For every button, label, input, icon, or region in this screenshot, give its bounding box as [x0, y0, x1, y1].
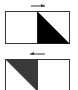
diagram-canvas	[0, 0, 78, 90]
bottom-panel	[6, 52, 70, 90]
top-panel	[6, 4, 70, 44]
